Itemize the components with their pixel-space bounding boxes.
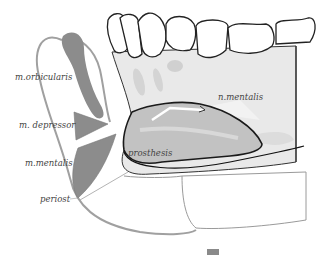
label-mentalis: m.mentalis [25,159,73,168]
tooth-4 [166,17,196,51]
tooth-7 [276,18,315,44]
tooth-6 [228,24,274,54]
tooth-5 [196,20,228,57]
label-prosthesis: prosthesis [128,149,172,158]
lower-gum-block [182,172,306,229]
label-n-mentalis: n.mentalis [218,93,263,102]
label-periost: periost [40,195,70,204]
tooth-3 [138,13,166,57]
label-orbicularis: m.orbicularis [15,73,72,82]
page-marker [207,249,219,255]
label-depressor: m. depressor [19,121,75,130]
